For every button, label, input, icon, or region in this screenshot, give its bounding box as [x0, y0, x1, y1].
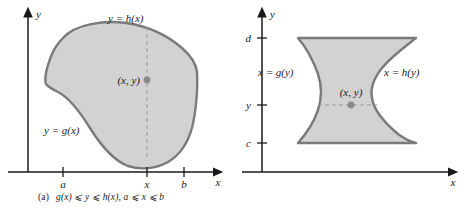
tick-label-x: x [144, 178, 150, 190]
tick-label-a: a [60, 178, 66, 190]
panel-b: d y c y x x = g(y) x = h(y) (x, y) (b)g(… [234, 0, 469, 217]
panel-b-diagram: d y c y x x = g(y) x = h(y) (x, y) [234, 0, 469, 190]
caption-a-label: (a) [38, 192, 49, 202]
figure-root: a x b y x y = h(x) y = g(x) (x, y) (a)g(… [0, 0, 469, 217]
right-curve-label-b: x = h(y) [383, 66, 420, 79]
axis-label-x-b: x [450, 176, 456, 188]
tick-label-d: d [246, 32, 252, 44]
region-a-fill [45, 22, 197, 168]
axis-label-x-a: x [215, 176, 221, 188]
point-label-a: (x, y) [117, 74, 140, 87]
point-label-b: (x, y) [340, 86, 363, 99]
sample-point-b [348, 102, 355, 109]
caption-a: (a)g(x) ⩽ y ⩽ h(x), a ⩽ x ⩽ b [38, 191, 164, 202]
axis-label-y-b: y [269, 8, 275, 20]
caption-a-body: g(x) ⩽ y ⩽ h(x), a ⩽ x ⩽ b [56, 192, 164, 202]
panel-a-diagram: a x b y x y = h(x) y = g(x) (x, y) [0, 0, 234, 190]
tick-label-c: c [246, 137, 251, 149]
upper-curve-label-a: y = h(x) [107, 12, 144, 25]
tick-label-b: b [181, 178, 187, 190]
lower-curve-label-a: y = g(x) [43, 124, 80, 137]
sample-point-a [144, 77, 151, 84]
panel-a: a x b y x y = h(x) y = g(x) (x, y) (a)g(… [0, 0, 234, 217]
tick-label-y: y [245, 99, 251, 111]
left-curve-label-b: x = g(y) [257, 66, 294, 79]
axis-label-y-a: y [35, 8, 41, 20]
